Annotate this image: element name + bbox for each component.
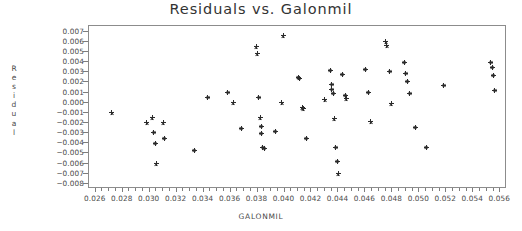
x-axis-minor-tick-mark — [223, 188, 224, 191]
data-point — [256, 95, 261, 100]
x-axis-minor-tick-mark — [115, 188, 116, 191]
data-point — [332, 116, 337, 121]
x-axis-minor-tick-mark — [162, 188, 163, 191]
x-axis-tick-label: 0.052 — [435, 194, 456, 203]
data-point — [492, 88, 497, 93]
y-axis-tick-label: 0.003 — [63, 67, 84, 76]
data-point — [490, 65, 495, 70]
data-point — [231, 100, 236, 105]
y-axis-tick-mark — [83, 163, 88, 164]
x-axis-tick-mark — [203, 188, 204, 192]
x-axis-minor-tick-mark — [290, 188, 291, 191]
y-axis-tick-label: −0.001 — [56, 107, 84, 116]
x-axis-minor-tick-mark — [398, 188, 399, 191]
data-point — [387, 69, 392, 74]
data-point — [335, 159, 340, 164]
x-axis-minor-tick-mark — [277, 188, 278, 191]
y-axis-title-char: u — [8, 109, 20, 118]
x-axis-minor-tick-mark — [297, 188, 298, 191]
data-point — [109, 110, 114, 115]
data-point — [258, 115, 263, 120]
x-axis-minor-tick-mark — [351, 188, 352, 191]
x-axis-minor-tick-mark — [344, 188, 345, 191]
x-axis-minor-tick-mark — [405, 188, 406, 191]
data-point — [424, 145, 429, 150]
y-axis-tick-mark — [83, 132, 88, 133]
data-point — [161, 120, 166, 125]
x-axis-minor-tick-mark — [432, 188, 433, 191]
y-axis-tick-label: −0.005 — [56, 148, 84, 157]
y-axis-title-char: e — [8, 73, 20, 82]
data-point — [259, 124, 264, 129]
x-axis-minor-tick-mark — [317, 188, 318, 191]
residual-scatter-chart: Residuals vs. Galonmil Residual 0.0070.0… — [0, 0, 522, 231]
data-point — [363, 67, 368, 72]
y-axis-title-char: s — [8, 82, 20, 91]
data-point — [162, 136, 167, 141]
y-axis-tick-mark — [83, 122, 88, 123]
data-point — [488, 60, 493, 65]
data-point — [304, 136, 309, 141]
x-axis-minor-tick-mark — [358, 188, 359, 191]
x-axis-minor-tick-mark — [189, 188, 190, 191]
y-axis-tick-label: 0.004 — [63, 57, 84, 66]
x-axis-minor-tick-mark — [324, 188, 325, 191]
y-axis-tick-label: 0.000 — [63, 97, 84, 106]
y-axis-title: Residual — [8, 64, 20, 137]
x-axis-tick-mark — [95, 188, 96, 192]
data-point — [225, 90, 230, 95]
data-point — [279, 100, 284, 105]
data-point — [383, 39, 388, 44]
y-axis-tick-mark — [83, 112, 88, 113]
data-point — [260, 145, 265, 150]
x-axis-tick-mark — [391, 188, 392, 192]
data-point — [254, 44, 259, 49]
x-axis-tick-mark — [310, 188, 311, 192]
x-axis-minor-tick-mark — [371, 188, 372, 191]
y-axis-tick-mark — [83, 71, 88, 72]
x-axis-tick-mark — [149, 188, 150, 192]
x-axis-minor-tick-mark — [304, 188, 305, 191]
y-axis-tick-mark — [83, 183, 88, 184]
data-point — [322, 97, 327, 102]
data-point — [403, 71, 408, 76]
x-axis-tick-mark — [445, 188, 446, 192]
data-point — [192, 148, 197, 153]
data-point — [205, 95, 210, 100]
x-axis-tick-label: 0.034 — [192, 194, 213, 203]
data-point — [296, 75, 301, 80]
data-point — [262, 146, 267, 151]
x-axis-minor-tick-mark — [216, 188, 217, 191]
y-axis-tick-label: 0.006 — [63, 36, 84, 45]
data-point — [366, 90, 371, 95]
y-axis-tick-mark — [83, 81, 88, 82]
y-axis-title-char: i — [8, 91, 20, 100]
data-point — [407, 91, 412, 96]
x-axis-minor-tick-mark — [155, 188, 156, 191]
x-axis-tick-label: 0.038 — [246, 194, 267, 203]
x-axis-tick-label: 0.044 — [327, 194, 348, 203]
data-point — [329, 87, 334, 92]
x-axis-tick-mark — [337, 188, 338, 192]
x-axis-tick-mark — [230, 188, 231, 192]
x-axis-tick-label: 0.032 — [165, 194, 186, 203]
data-point — [491, 73, 496, 78]
y-axis-tick-label: −0.003 — [56, 128, 84, 137]
y-axis-tick-mark — [83, 152, 88, 153]
data-point — [154, 161, 159, 166]
y-axis-tick-mark — [83, 41, 88, 42]
x-axis-minor-tick-mark — [101, 188, 102, 191]
data-point — [413, 125, 418, 130]
data-point — [344, 96, 349, 101]
data-point — [343, 93, 348, 98]
x-axis-minor-tick-mark — [385, 188, 386, 191]
x-axis-minor-tick-mark — [182, 188, 183, 191]
x-axis-tick-mark — [176, 188, 177, 192]
x-axis-minor-tick-mark — [412, 188, 413, 191]
x-axis-tick-label: 0.050 — [408, 194, 429, 203]
data-point — [239, 126, 244, 131]
y-axis-tick-label: 0.002 — [63, 77, 84, 86]
y-axis-tick-label: −0.007 — [56, 168, 84, 177]
data-point — [328, 68, 333, 73]
data-point — [273, 129, 278, 134]
